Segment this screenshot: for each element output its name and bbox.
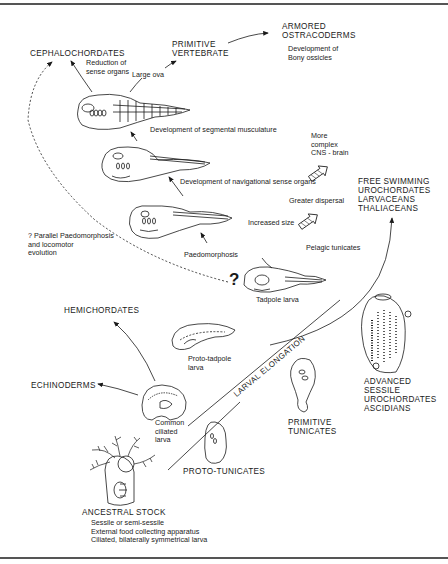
label-line: PRIMITIVE bbox=[172, 40, 229, 49]
common-ciliated-larva-figure bbox=[142, 385, 186, 420]
group-ancestral-stock: ANCESTRAL STOCK bbox=[82, 508, 166, 517]
arrow-to-primitive-vertebrate bbox=[165, 61, 176, 68]
label-line: HEMICHORDATES bbox=[64, 306, 139, 315]
group-primitive-tunicates: PRIMITIVE TUNICATES bbox=[288, 418, 337, 436]
label-line: ANCESTRAL STOCK bbox=[82, 508, 166, 517]
annotation-increased-size: Increased size bbox=[248, 219, 294, 228]
label-line: ARMORED bbox=[282, 22, 356, 31]
label-line: sense organs bbox=[86, 68, 129, 77]
annotation-ancestral-traits: Sessile or semi-sessile External food co… bbox=[91, 519, 207, 545]
annotation-tadpole-larva: Tadpole larva bbox=[256, 296, 299, 305]
group-echinoderms: ECHINODERMS bbox=[31, 381, 96, 390]
group-proto-tunicates: PROTO-TUNICATES bbox=[183, 467, 265, 476]
annotation-navigational-sense-organs: Development of navigational sense organs bbox=[180, 178, 316, 187]
label-line: UROCHORDATES bbox=[364, 395, 437, 404]
ascidian-figure bbox=[362, 294, 412, 373]
annotation-large-ova: Large ova bbox=[132, 71, 164, 80]
primitive-tunicate-figure bbox=[291, 358, 316, 412]
label-line: CNS - brain bbox=[311, 149, 349, 158]
tadpole-larva-figure bbox=[244, 267, 326, 292]
label-line: PRIMITIVE bbox=[288, 418, 337, 427]
label-line: TUNICATES bbox=[288, 427, 337, 436]
group-hemichordates: HEMICHORDATES bbox=[64, 306, 139, 315]
label-line: SESSILE bbox=[364, 386, 437, 395]
label-line: PROTO-TUNICATES bbox=[183, 467, 265, 476]
proto-tunicate-figure bbox=[205, 422, 227, 464]
arrow-to-hemichordates bbox=[114, 322, 155, 381]
increased-size-tadpole-figure bbox=[129, 206, 232, 239]
pelagic-tunicates-curve bbox=[270, 218, 392, 345]
group-cephalochordates: CEPHALOCHORDATES bbox=[30, 49, 125, 58]
annotation-bony-ossicles: Development of Bony ossicles bbox=[288, 45, 338, 62]
label-line: ASCIDIANS bbox=[364, 404, 437, 413]
question-mark: ? bbox=[229, 270, 239, 290]
label-line: VERTEBRATE bbox=[172, 49, 229, 58]
proto-tadpole-larva-figure bbox=[172, 324, 235, 350]
label-line: OSTRACODERMS bbox=[282, 31, 356, 40]
annotation-proto-tadpole-larva: Proto-tadpole larva bbox=[188, 355, 231, 372]
group-primitive-vertebrate: PRIMITIVE VERTEBRATE bbox=[172, 40, 229, 58]
diagram-artwork bbox=[0, 0, 448, 564]
label-line: UROCHORDATES bbox=[358, 186, 431, 195]
annotation-parallel-paedomorphosis: ? Parallel Paedomorphosis and locomotor … bbox=[28, 232, 114, 258]
arrow-to-echinoderms bbox=[98, 384, 138, 395]
ancestral-stock-figure bbox=[90, 436, 155, 505]
label-line: larva bbox=[188, 364, 231, 373]
label-line: CEPHALOCHORDATES bbox=[30, 49, 125, 58]
arrow-to-ostracoderms bbox=[228, 33, 268, 43]
label-line: THALIACEANS bbox=[358, 204, 431, 213]
group-armored-ostracoderms: ARMORED OSTRACODERMS bbox=[282, 22, 356, 40]
annotation-common-ciliated-larva: Common ciliated larva bbox=[155, 419, 184, 445]
led-to-arrow-dispersal bbox=[297, 210, 321, 232]
label-line: ADVANCED bbox=[364, 377, 437, 386]
annotation-more-complex-cns: More complex CNS - brain bbox=[311, 132, 349, 158]
group-free-swimming-urochordates: FREE SWIMMING UROCHORDATES LARVACEANS TH… bbox=[358, 177, 431, 213]
annotation-pelagic-tunicates: Pelagic tunicates bbox=[306, 244, 360, 253]
group-advanced-sessile-urochordates: ADVANCED SESSILE UROCHORDATES ASCIDIANS bbox=[364, 377, 437, 413]
label-line: Bony ossicles bbox=[288, 54, 338, 63]
annotation-segmental-musculature: Development of segmental musculature bbox=[150, 126, 277, 135]
annotation-reduction-sense-organs: Reduction of sense organs bbox=[86, 59, 129, 76]
label-line: larva bbox=[155, 436, 184, 445]
annotation-paedomorphosis: Paedomorphosis bbox=[184, 251, 238, 260]
label-line: LARVACEANS bbox=[358, 195, 431, 204]
label-line: Ciliated, bilaterally symmetrical larva bbox=[91, 536, 207, 545]
label-line: ECHINODERMS bbox=[31, 381, 96, 390]
label-line: evolution bbox=[28, 249, 114, 258]
annotation-greater-dispersal: Greater dispersal bbox=[289, 197, 344, 206]
label-line: FREE SWIMMING bbox=[358, 177, 431, 186]
